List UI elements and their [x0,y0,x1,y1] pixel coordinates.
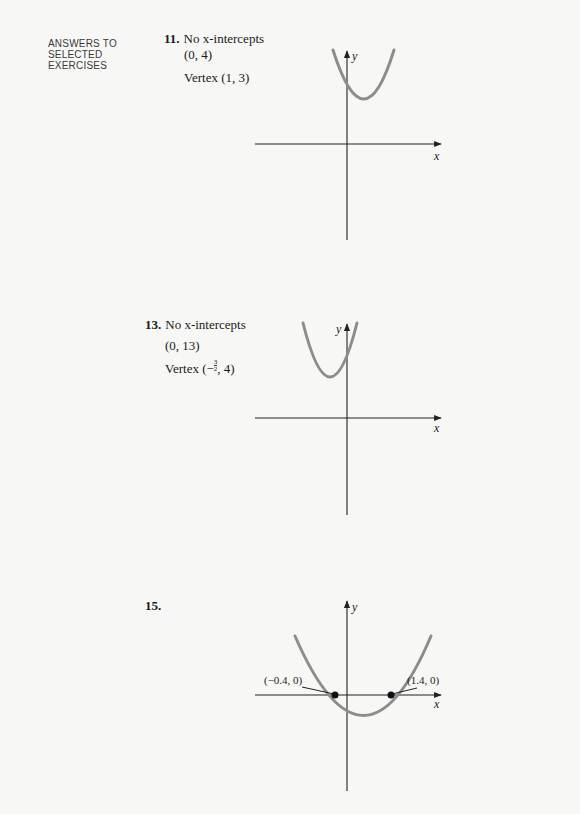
x-intercept-point [388,692,395,699]
x-axis-label: x [433,697,440,711]
leader-line [302,687,334,694]
parabola-curve [303,323,357,377]
point-label: (1.4, 0) [407,674,439,687]
y-axis-label: y [351,600,358,614]
leader-line [392,688,417,694]
y-axis-label: y [351,49,358,63]
point-label: (−0.4, 0) [264,674,303,687]
x-axis-label: x [433,149,440,163]
graph-exercise-13: y x [255,322,441,515]
x-axis-label: x [433,421,440,435]
parabola-curve [333,50,394,99]
y-axis-label: y [335,322,342,336]
graphs: y x y x (−0.4, 0) (1.4, 0) y x [0,0,580,814]
graph-exercise-15: (−0.4, 0) (1.4, 0) y x [255,600,441,791]
graph-exercise-11: y x [255,49,441,240]
x-intercept-point [332,692,339,699]
